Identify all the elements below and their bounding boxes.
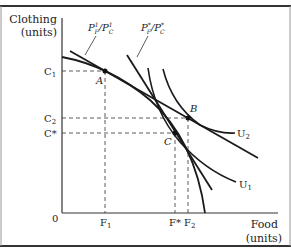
diagram-frame: Clothing (units) Food (units) 0 C1 C2 C*… — [0, 0, 291, 252]
c1-label: C1 — [44, 66, 56, 79]
fstar-label: F* — [169, 217, 181, 228]
point-a-label: A — [95, 75, 103, 86]
point-c — [173, 131, 178, 136]
indifference-curve-u2 — [163, 69, 235, 133]
ppf-diagram: Clothing (units) Food (units) 0 C1 C2 C*… — [0, 0, 291, 252]
u1-label: U1 — [239, 179, 252, 192]
cstar-label: C* — [44, 128, 57, 139]
f2-label: F2 — [184, 217, 195, 230]
point-b-label: B — [189, 103, 197, 114]
point-c-label: C — [164, 136, 172, 147]
y-axis-label-2: (units) — [21, 26, 57, 39]
x-axis-label-1: Food — [251, 218, 278, 231]
price-label-1: P1F/P1C — [87, 21, 114, 35]
y-axis-label-1: Clothing — [9, 13, 57, 26]
price-label-star: P*F/P*C — [140, 21, 165, 35]
point-b — [186, 116, 191, 121]
p1-label-pointer — [85, 36, 96, 55]
indifference-curve-u1 — [148, 68, 236, 182]
f1-label: F1 — [100, 217, 111, 230]
origin-label: 0 — [52, 213, 58, 224]
pstar-label-pointer — [137, 36, 148, 57]
point-a — [103, 69, 108, 74]
price-line-star — [127, 55, 212, 190]
u2-label: U2 — [237, 128, 250, 141]
ppf-curve — [62, 57, 205, 213]
c2-label: C2 — [44, 113, 56, 126]
x-axis-label-2: (units) — [246, 232, 282, 245]
